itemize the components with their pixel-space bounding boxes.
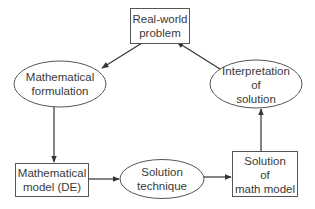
real-world-line-1: Real-world <box>133 13 188 25</box>
node-real-world-problem: Real-world problem <box>131 9 190 44</box>
node-interpretation-of-solution: Interpretation of solution <box>210 60 302 108</box>
solution-line-1: Solution <box>244 155 286 167</box>
model-line-1: Mathematical <box>18 167 86 179</box>
interpretation-line-1: Interpretation <box>222 65 290 77</box>
solution-line-3: math model <box>235 183 295 195</box>
real-world-line-2: problem <box>139 27 181 39</box>
technique-line-2: technique <box>137 180 187 192</box>
modeling-cycle-diagram: Real-world problem Mathematical formulat… <box>0 0 315 209</box>
solution-line-2: of <box>260 169 270 181</box>
interpretation-line-2: of <box>251 79 261 91</box>
arrow-real-world-to-formulation <box>102 43 142 68</box>
arrow-interpretation-to-real-world <box>177 42 220 69</box>
node-solution-of-math-model: Solution of math model <box>233 152 298 197</box>
formulation-line-1: Mathematical <box>26 71 94 83</box>
model-line-2: model (DE) <box>23 181 81 193</box>
formulation-line-2: formulation <box>32 85 89 97</box>
formulation-ellipse <box>14 61 106 107</box>
node-mathematical-formulation: Mathematical formulation <box>14 61 106 107</box>
node-mathematical-model: Mathematical model (DE) <box>16 164 89 197</box>
node-solution-technique: Solution technique <box>120 160 204 199</box>
interpretation-line-3: solution <box>236 93 276 105</box>
technique-line-1: Solution <box>141 166 183 178</box>
